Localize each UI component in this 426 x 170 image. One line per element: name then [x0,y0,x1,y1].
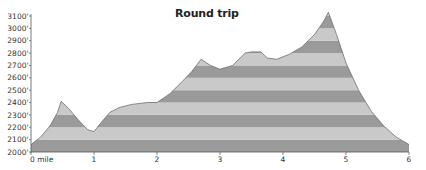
y-tick-label: 2100' [7,135,28,144]
y-tick-label: 3000' [7,24,28,33]
x-tick-label: 3 [218,155,223,164]
x-tick-label: 5 [344,155,349,164]
y-tick-label: 2300' [7,111,28,120]
y-tick-label: 2600' [7,73,28,82]
y-tick-label: 2900' [7,36,28,45]
elevation-band [31,103,409,115]
y-tick-label: 2000' [7,148,28,157]
elevation-band [31,53,409,65]
y-tick-label: 3100' [7,12,28,21]
x-tick-label: 6 [407,155,412,164]
elevation-band [31,115,409,127]
y-tick-label: 2400' [7,98,28,107]
chart-canvas: 2000'2100'2200'2300'2400'2500'2600'2700'… [0,0,426,170]
elevation-band [31,90,409,102]
elevation-band [31,140,409,152]
y-tick-label: 2700' [7,61,28,70]
y-tick-label: 2500' [7,86,28,95]
x-axis: 0 mile123456 [30,152,412,164]
chart-title: Round trip [175,7,239,20]
x-tick-label: 1 [92,155,97,164]
elevation-band [31,41,409,53]
y-axis: 2000'2100'2200'2300'2400'2500'2600'2700'… [7,12,31,157]
x-tick-label: 2 [155,155,160,164]
x-tick-label: 0 mile [30,155,54,164]
elevation-band [31,78,409,90]
y-tick-label: 2200' [7,123,28,132]
y-tick-label: 2800' [7,49,28,58]
elevation-band [31,28,409,40]
elevation-chart: 2000'2100'2200'2300'2400'2500'2600'2700'… [0,0,426,170]
x-tick-label: 4 [281,155,286,164]
